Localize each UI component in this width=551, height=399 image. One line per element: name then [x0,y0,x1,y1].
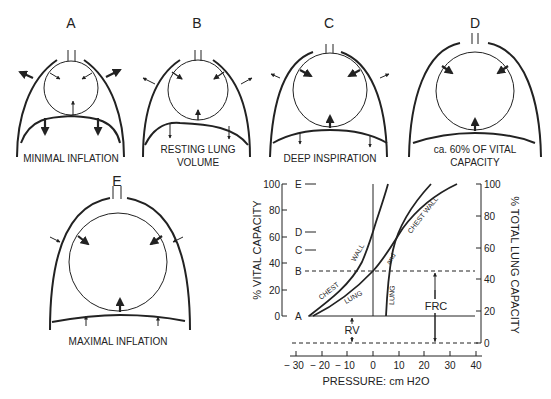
svg-text:B: B [295,266,302,277]
panel-e-caption: MAXIMAL INFLATION [69,336,168,347]
panel-d-caption-line1: ca. 60% OF VITAL [434,144,517,155]
svg-text:80: 80 [484,211,496,222]
pressure-volume-chart: 100 80 60 40 20 0 % VITAL CAPACITY E D C… [251,179,521,387]
panel-b-letter: B [192,15,201,31]
svg-text:D: D [295,227,302,238]
panel-e: E MAXIMAL INFLATION [50,173,190,347]
svg-text:100: 100 [484,179,501,190]
svg-text:30: 30 [444,360,456,371]
svg-text:80: 80 [269,205,281,216]
panel-e-letter: E [112,173,121,189]
panel-a: A MINIMAL INFLATION [17,15,124,164]
panel-b-caption-line2: VOLUME [177,157,220,168]
svg-text:LUNG: LUNG [388,285,396,305]
svg-text:60: 60 [484,243,496,254]
right-y-axis-label: % TOTAL LUNG CAPACITY [509,196,521,334]
x-ticks [296,351,476,356]
panel-a-caption: MINIMAL INFLATION [23,153,119,164]
svg-text:0: 0 [484,338,490,349]
svg-text:40: 40 [470,360,482,371]
svg-text:0: 0 [274,311,280,322]
panel-d-letter: D [470,15,480,31]
svg-text:A: A [295,311,302,322]
svg-text:C: C [295,245,302,256]
svg-text:20: 20 [418,360,430,371]
svg-text:CHEST WALL: CHEST WALL [406,195,439,234]
curve-labels: CHEST WALL LUNG and LUNG CHEST WALL [317,195,439,305]
panel-c-letter: C [324,15,334,31]
left-y-tick-labels: 100 80 60 40 20 0 [263,179,280,322]
panel-d: D ca. 60% OF VITAL CAPACITY [409,15,541,168]
figure-canvas: A MINIMAL INFLATION B RESTING LUNG VOLUM… [0,0,551,399]
rv-label: RV [344,324,360,336]
svg-text:LUNG: LUNG [343,289,363,305]
left-y-ticks [282,184,287,316]
panel-d-caption-line2: CAPACITY [450,157,500,168]
state-markers: E D C B A [295,179,302,322]
frc-label: FRC [425,300,448,312]
svg-text:− 20: − 20 [310,360,330,371]
panel-a-letter: A [66,15,76,31]
panel-c: C DEEP INSPIRATION [270,15,389,164]
svg-text:60: 60 [269,232,281,243]
svg-text:40: 40 [484,274,496,285]
svg-text:0: 0 [370,360,376,371]
left-y-axis-label: % VITAL CAPACITY [251,200,263,300]
svg-text:− 30: − 30 [284,360,304,371]
panel-b-caption-line1: RESTING LUNG [160,144,235,155]
svg-text:100: 100 [263,179,280,190]
svg-text:E: E [295,179,302,190]
svg-text:10: 10 [393,360,405,371]
right-y-tick-labels: 100 80 60 40 20 0 [484,179,501,349]
svg-text:− 10: − 10 [335,360,355,371]
svg-text:20: 20 [484,306,496,317]
right-y-ticks [476,184,481,343]
x-tick-labels: − 30 − 20 − 10 0 10 20 30 40 [284,360,482,371]
svg-text:20: 20 [269,285,281,296]
x-axis-label: PRESSURE: cm H2O [323,375,430,387]
svg-text:40: 40 [269,258,281,269]
svg-text:CHEST: CHEST [317,280,341,301]
panel-c-caption: DEEP INSPIRATION [284,153,377,164]
panel-b: B RESTING LUNG VOLUME [143,15,252,168]
